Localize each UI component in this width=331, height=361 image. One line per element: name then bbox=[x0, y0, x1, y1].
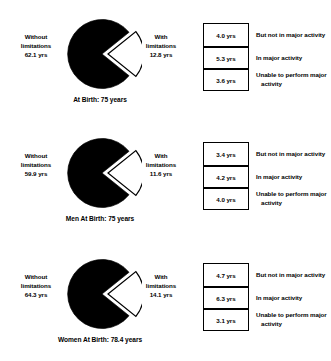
breakdown-row: 4.2 yrs In major activity bbox=[204, 165, 248, 187]
pie-group: Without limitations 62.1 yrs With limita… bbox=[0, 0, 200, 119]
breakdown-value: 4.0 yrs bbox=[216, 196, 235, 203]
breakdown-description: In major activity bbox=[256, 54, 331, 63]
label-line-1: With bbox=[154, 273, 167, 280]
label-line-2: limitations bbox=[146, 42, 176, 49]
pie-label-with-limitations: With limitations 12.8 yrs bbox=[132, 33, 190, 59]
label-line-2: limitations bbox=[21, 161, 51, 168]
breakdown-description: In major activity bbox=[256, 294, 331, 303]
breakdown-row: 3.1 yrs Unable to perform major activity bbox=[204, 308, 248, 330]
label-line-1: Without bbox=[25, 33, 48, 40]
breakdown-row: 3.6 yrs Unable to perform major activity bbox=[204, 68, 248, 90]
label-line-1: Without bbox=[25, 273, 48, 280]
breakdown-box: 4.7 yrs But not in major activity 6.3 yr… bbox=[203, 263, 249, 331]
label-line-1: Without bbox=[25, 152, 48, 159]
pie-label-without-limitations: Without limitations 59.9 yrs bbox=[8, 152, 64, 178]
breakdown-description: Unable to perform major activity bbox=[256, 71, 331, 89]
pie-label-with-limitations: With limitations 11.6 yrs bbox=[132, 152, 190, 178]
label-value: 12.8 yrs bbox=[150, 51, 173, 58]
label-value: 11.6 yrs bbox=[150, 170, 172, 177]
chart-panel-men-at-birth: Without limitations 59.9 yrs With limita… bbox=[0, 119, 321, 240]
pie-group: Without limitations 59.9 yrs With limita… bbox=[0, 119, 200, 240]
breakdown-row: 4.0 yrs Unable to perform major activity bbox=[204, 187, 248, 209]
label-value: 59.9 yrs bbox=[25, 170, 48, 177]
breakdown-row: 4.0 yrs But not in major activity bbox=[204, 24, 248, 46]
pie-group: Without limitations 64.3 yrs With limita… bbox=[0, 240, 200, 361]
label-value: 64.3 yrs bbox=[25, 291, 48, 298]
breakdown-value: 6.3 yrs bbox=[216, 295, 235, 302]
breakdown-value: 4.7 yrs bbox=[216, 272, 235, 279]
breakdown-box: 4.0 yrs But not in major activity 5.3 yr… bbox=[203, 23, 249, 91]
label-value: 14.1 yrs bbox=[150, 291, 173, 298]
chart-caption: At Birth: 75 years bbox=[0, 96, 200, 103]
chart-panel-at-birth: Without limitations 62.1 yrs With limita… bbox=[0, 0, 321, 119]
pie-chart-at-birth bbox=[62, 14, 142, 94]
breakdown-description: In major activity bbox=[256, 173, 331, 182]
chart-caption: Men At Birth: 75 years bbox=[0, 215, 200, 222]
breakdown-value: 3.4 yrs bbox=[216, 151, 235, 158]
chart-panel-women-at-birth: Without limitations 64.3 yrs With limita… bbox=[0, 240, 321, 361]
pie-chart-women-at-birth bbox=[62, 254, 142, 334]
pie-label-without-limitations: Without limitations 64.3 yrs bbox=[8, 273, 64, 299]
breakdown-value: 5.3 yrs bbox=[216, 55, 235, 62]
label-line-1: With bbox=[154, 152, 167, 159]
breakdown-box: 3.4 yrs But not in major activity 4.2 yr… bbox=[203, 142, 249, 210]
breakdown-value: 3.6 yrs bbox=[216, 77, 235, 84]
breakdown-row: 6.3 yrs In major activity bbox=[204, 286, 248, 308]
label-line-2: limitations bbox=[146, 282, 176, 289]
breakdown-value: 4.0 yrs bbox=[216, 32, 235, 39]
label-line-2: limitations bbox=[21, 42, 51, 49]
breakdown-description: But not in major activity bbox=[256, 271, 331, 280]
label-line-2: limitations bbox=[21, 282, 51, 289]
pie-label-with-limitations: With limitations 14.1 yrs bbox=[132, 273, 190, 299]
breakdown-description: Unable to perform major activity bbox=[256, 190, 331, 208]
breakdown-description: Unable to perform major activity bbox=[256, 311, 331, 329]
breakdown-row: 3.4 yrs But not in major activity bbox=[204, 143, 248, 165]
pie-chart-men-at-birth bbox=[62, 133, 142, 213]
chart-caption: Women At Birth: 78.4 years bbox=[0, 336, 200, 343]
breakdown-value: 3.1 yrs bbox=[216, 317, 235, 324]
label-line-2: limitations bbox=[146, 161, 176, 168]
breakdown-row: 5.3 yrs In major activity bbox=[204, 46, 248, 68]
breakdown-description: But not in major activity bbox=[256, 150, 331, 159]
label-line-1: With bbox=[154, 33, 167, 40]
label-value: 62.1 yrs bbox=[25, 51, 48, 58]
breakdown-row: 4.7 yrs But not in major activity bbox=[204, 264, 248, 286]
breakdown-description: But not in major activity bbox=[256, 31, 331, 40]
breakdown-value: 4.2 yrs bbox=[216, 174, 235, 181]
pie-label-without-limitations: Without limitations 62.1 yrs bbox=[8, 33, 64, 59]
